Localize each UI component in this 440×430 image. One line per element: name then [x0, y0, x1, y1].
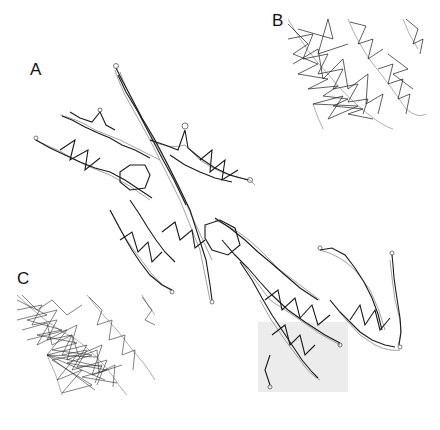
- highlight-region: [258, 322, 348, 392]
- panel-b-inset: [288, 14, 426, 134]
- panel-c-inset: [17, 295, 155, 395]
